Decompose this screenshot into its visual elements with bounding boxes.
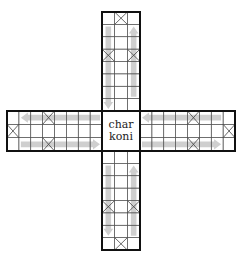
board-square-bottom-3-1[interactable] (115, 188, 128, 200)
board-square-top-1-1[interactable] (115, 24, 128, 36)
board-square-top-2-1[interactable] (115, 37, 128, 49)
board-square-right-2-7[interactable] (223, 138, 235, 151)
board-square-right-0-7[interactable] (223, 111, 235, 124)
board-square-top-3-1[interactable] (115, 49, 128, 61)
board-square-bottom-5-1[interactable] (115, 213, 128, 225)
arrow-left-icon (21, 113, 100, 123)
board-square-right-1-0[interactable] (140, 124, 152, 137)
board-square-bottom-4-1[interactable] (115, 201, 128, 213)
arrow-right-icon (142, 139, 221, 149)
board-square-bottom-7-2[interactable] (127, 238, 140, 250)
board-square-right-1-4[interactable] (188, 124, 200, 137)
board-square-left-1-7[interactable] (90, 124, 102, 137)
board-square-top-0-0[interactable] (102, 12, 115, 24)
board-square-bottom-0-1[interactable] (115, 151, 128, 163)
safe-square-cross-icon (7, 124, 19, 137)
board-square-top-5-1[interactable] (115, 74, 128, 86)
board-square-left-1-5[interactable] (66, 124, 78, 137)
center-home-charkoni[interactable]: char koni (102, 111, 140, 151)
board-square-bottom-7-0[interactable] (102, 238, 115, 250)
board-square-right-1-3[interactable] (176, 124, 188, 137)
arrow-right-icon (21, 139, 100, 149)
arrow-down-icon (104, 26, 114, 109)
board-square-bottom-0-0[interactable] (102, 151, 115, 163)
board-square-left-0-0[interactable] (7, 111, 19, 124)
board-square-top-7-2[interactable] (127, 99, 140, 111)
board-square-top-7-1[interactable] (115, 99, 128, 111)
arrow-left-icon (142, 113, 221, 123)
board-square-left-1-4[interactable] (55, 124, 67, 137)
board-square-bottom-0-2[interactable] (127, 151, 140, 163)
safe-square-cross-icon (115, 238, 128, 250)
board-square-left-1-6[interactable] (78, 124, 90, 137)
board-square-left-1-1[interactable] (19, 124, 31, 137)
board-square-right-1-6[interactable] (211, 124, 223, 137)
board-square-left-2-0[interactable] (7, 138, 19, 151)
board-square-left-1-2[interactable] (31, 124, 43, 137)
board-square-bottom-6-1[interactable] (115, 225, 128, 237)
board-square-right-1-5[interactable] (199, 124, 211, 137)
board-square-right-1-2[interactable] (164, 124, 176, 137)
board-square-top-0-2[interactable] (127, 12, 140, 24)
board-square-top-4-1[interactable] (115, 62, 128, 74)
center-label-line2: koni (109, 131, 133, 143)
board-square-bottom-2-1[interactable] (115, 176, 128, 188)
board-square-top-6-1[interactable] (115, 86, 128, 98)
board-square-left-1-3[interactable] (43, 124, 55, 137)
safe-square-cross-icon (223, 124, 235, 137)
board-square-bottom-1-1[interactable] (115, 163, 128, 175)
board-square-right-1-1[interactable] (152, 124, 164, 137)
safe-square-cross-icon (115, 12, 128, 24)
